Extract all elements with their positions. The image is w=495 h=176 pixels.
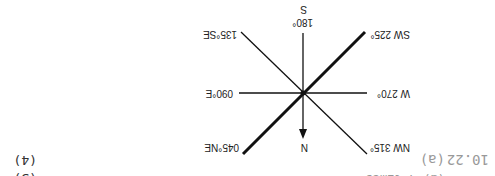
label-northwest: NW 315° — [370, 142, 410, 153]
center-dot — [301, 91, 306, 96]
label-south-bearing: 180° — [292, 17, 313, 28]
label-southwest: SW 225° — [370, 29, 410, 40]
rotated-page: 10.22 (a) (a) 4 times (4) (3) N 045°NE 0… — [0, 0, 495, 176]
label-west: W 270° — [377, 88, 410, 99]
label-east: 090°E — [206, 88, 233, 99]
label-north: N — [301, 142, 308, 153]
label-south: S — [300, 4, 307, 15]
compass-rose — [0, 0, 495, 176]
north-arrow-icon — [299, 129, 307, 139]
label-southeast: 135°SE — [203, 29, 237, 40]
label-northeast: 045°NE — [204, 142, 239, 153]
